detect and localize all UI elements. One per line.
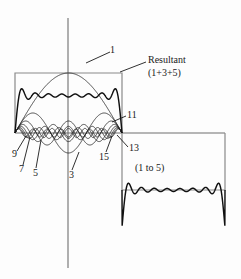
leader-line-resultant bbox=[120, 62, 146, 72]
label-harmonic-7: 7 bbox=[19, 164, 24, 175]
label-harmonic-13: 13 bbox=[129, 143, 139, 154]
figure-canvas bbox=[0, 0, 241, 279]
leader-line-harmonic-9 bbox=[17, 136, 26, 151]
label-harmonic-9: 9 bbox=[12, 149, 17, 160]
label-harmonic-3: 3 bbox=[69, 170, 74, 181]
label-group-range: (1 to 5) bbox=[135, 163, 164, 174]
leader-line-harmonic-7 bbox=[23, 137, 30, 165]
label-harmonic-11: 11 bbox=[127, 110, 137, 121]
leader-line-harmonic-1 bbox=[86, 52, 110, 63]
axes-group bbox=[15, 18, 225, 268]
label-resultant-line1: Resultant bbox=[148, 55, 186, 66]
label-harmonic-1: 1 bbox=[110, 45, 115, 56]
leader-line-harmonic-5 bbox=[36, 140, 41, 168]
label-resultant-line2: (1+3+5) bbox=[148, 68, 181, 79]
leader-line-harmonic-3 bbox=[72, 152, 79, 170]
label-harmonic-5: 5 bbox=[33, 168, 38, 179]
resultant-waveforms-group bbox=[15, 89, 225, 226]
label-harmonic-15: 15 bbox=[99, 152, 109, 163]
fourier-harmonic-synthesis-figure: 1 3 5 7 9 11 13 15 Resultant (1+3+5) (1 … bbox=[0, 0, 241, 279]
